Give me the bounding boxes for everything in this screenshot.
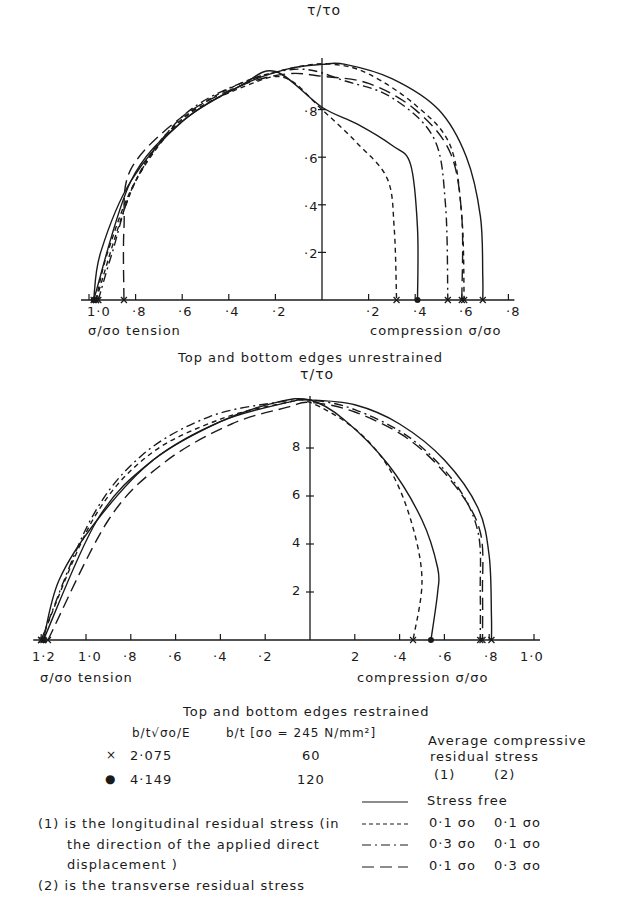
bottom-x-tick-label: 1·2: [32, 649, 56, 664]
series-dashed: [96, 64, 464, 300]
bottom-x-tick-label: ·6: [168, 649, 182, 664]
legend-slenderness-60: 2·075: [130, 748, 172, 763]
bottom-x-tick-label: ·8: [123, 649, 137, 664]
series-solid: [43, 399, 439, 640]
legend-style-longdash-c2: 0·3 σo: [494, 858, 541, 873]
top-y-tick-label: ·8: [304, 104, 318, 119]
top-x-tick-label: ·2: [366, 304, 380, 319]
top-x-label-tension: σ/σo tension: [88, 323, 181, 338]
top-x-tick-label: ·6: [178, 304, 192, 319]
bottom-x-tick-label: ·6: [438, 649, 452, 664]
legend-bt-60: 60: [302, 748, 321, 763]
bottom-y-tick-label: 2: [292, 583, 301, 598]
top-x-label-compression: compression σ/σo: [370, 323, 501, 338]
series-dashed: [41, 400, 422, 640]
legend-marker-dot: ●: [105, 772, 116, 786]
series-longdash: [123, 73, 462, 300]
bottom-y-tick-label: 8: [292, 439, 301, 454]
note-2: (2) is the transverse residual stress: [38, 878, 305, 893]
series-longdash: [48, 402, 483, 640]
series-solid: [94, 63, 483, 300]
bottom-x-tick-label: ·8: [484, 649, 498, 664]
top-x-tick-label: ·8: [506, 304, 520, 319]
bottom-x-tick-label: 2: [351, 649, 360, 664]
top-x-tick-label: ·4: [413, 304, 427, 319]
note-1-line-b: the direction of the applied direct: [67, 837, 320, 852]
legend-style-solid-label: Stress free: [427, 793, 508, 808]
bottom-plot: [33, 396, 540, 643]
top-y-tick-label: ·2: [304, 246, 318, 261]
legend-slenderness-120: 4·149: [130, 772, 172, 787]
bottom-x-tick-label: 1·0: [78, 649, 102, 664]
series-dashdot: [41, 399, 480, 640]
top-chart-caption: Top and bottom edges unrestrained: [178, 350, 443, 365]
legend-marker-cross: ×: [106, 748, 117, 762]
bottom-x-label-compression: compression σ/σo: [357, 670, 488, 685]
top-y-tick-label: ·4: [304, 199, 318, 214]
note-1-line-c: displacement ): [67, 857, 178, 872]
top-x-tick-label: ·4: [225, 304, 239, 319]
legend-style-dashed-c2: 0·1 σo: [494, 815, 541, 830]
bottom-x-tick-label: ·2: [258, 649, 272, 664]
top-x-tick-label: ·2: [272, 304, 286, 319]
residual-col1-label: (1): [434, 767, 455, 782]
bottom-chart-caption: Top and bottom edges restrained: [183, 704, 430, 719]
top-plot: [81, 58, 514, 303]
top-x-tick-label: ·6: [459, 304, 473, 319]
legend-style-longdash-c1: 0·1 σo: [429, 858, 476, 873]
bottom-x-tick-label: 1·0: [520, 649, 544, 664]
legend-style-dashdot-c2: 0·1 σo: [494, 836, 541, 851]
series-solid: [94, 71, 418, 300]
note-1-line-a: (1) is the longitudinal residual stress …: [38, 816, 340, 831]
legend-col1-header: b/t√σo/E: [132, 726, 191, 740]
legend-bt-120: 120: [297, 772, 325, 787]
bottom-y-tick-label: 4: [292, 535, 301, 550]
bottom-y-axis-label: τ/τo: [300, 366, 334, 382]
bottom-y-tick-label: 6: [292, 487, 301, 502]
series-dashdot: [98, 69, 448, 300]
bottom-x-tick-label: ·4: [393, 649, 407, 664]
legend-line-samples: [362, 802, 408, 867]
top-x-tick-label: ·8: [132, 304, 146, 319]
bottom-x-tick-label: ·4: [213, 649, 227, 664]
bottom-x-label-tension: σ/σo tension: [40, 670, 133, 685]
series-dashed: [96, 76, 397, 300]
residual-header-line2: residual stress: [430, 749, 539, 764]
top-x-tick-label: 1·0: [87, 304, 111, 319]
legend-style-dashed-c1: 0·1 σo: [429, 815, 476, 830]
legend-style-dashdot-c1: 0·3 σo: [429, 836, 476, 851]
legend-col2-header: b/t [σo = 245 N/mm²]: [226, 726, 376, 740]
top-y-axis-label: τ/τo: [307, 2, 341, 18]
top-y-tick-label: ·6: [304, 151, 318, 166]
residual-header-line1: Average compressive: [428, 733, 586, 748]
series-solid: [43, 400, 491, 640]
residual-col2-label: (2): [494, 767, 515, 782]
